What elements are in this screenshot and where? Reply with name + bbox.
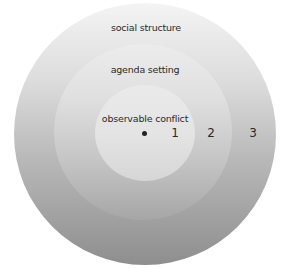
concentric-circle-diagram: social structure agenda setting observab…	[0, 0, 284, 269]
outer-ring-label: social structure	[111, 22, 181, 33]
ring-number-1: 1	[171, 126, 179, 140]
inner-ring-label: observable conflict	[102, 113, 188, 124]
ring-number-3: 3	[249, 126, 257, 140]
middle-ring-label: agenda setting	[111, 64, 180, 75]
ring-number-2: 2	[207, 126, 215, 140]
center-dot-icon	[142, 131, 147, 136]
